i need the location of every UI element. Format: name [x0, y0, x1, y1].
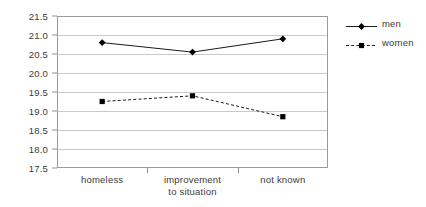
- data-point-women: [100, 99, 105, 104]
- legend-label: women: [382, 37, 414, 48]
- data-point-women: [190, 93, 195, 98]
- series-line-women: [102, 96, 283, 117]
- data-point-men: [279, 35, 286, 42]
- chart-figure: 17.518.018.519.019.520.020.521.021.5 hom…: [0, 0, 426, 207]
- x-axis-tick-label: improvementto situation: [164, 174, 221, 197]
- legend-item-women: women: [345, 33, 426, 52]
- data-point-men: [99, 39, 106, 46]
- y-axis-tick-label: 21.0: [29, 30, 48, 41]
- x-axis-tick-mark: [147, 168, 148, 173]
- y-axis-tick-label: 20.5: [29, 49, 48, 60]
- data-point-men: [189, 49, 196, 56]
- series-layer: [57, 16, 328, 168]
- y-axis-tick-label: 17.5: [29, 163, 48, 174]
- data-point-women: [280, 114, 285, 119]
- x-axis-tick-mark: [238, 168, 239, 173]
- legend-item-men: men: [345, 14, 426, 33]
- y-axis-tick-label: 18.5: [29, 125, 48, 136]
- y-axis-tick-label: 20.0: [29, 68, 48, 79]
- y-axis: 17.518.018.519.019.520.020.521.021.5: [0, 0, 57, 207]
- x-axis-label-line: homeless: [81, 174, 123, 186]
- square-marker-icon: [345, 37, 378, 48]
- legend-marker: [359, 43, 364, 48]
- y-axis-tick-label: 19.5: [29, 87, 48, 98]
- legend-label: men: [382, 18, 401, 29]
- chart-legend: menwomen: [345, 14, 426, 52]
- y-axis-tick-label: 18.0: [29, 144, 48, 155]
- y-axis-tick-label: 19.0: [29, 106, 48, 117]
- diamond-marker-icon: [345, 18, 378, 29]
- legend-marker: [358, 23, 365, 30]
- y-axis-tick-label: 21.5: [29, 11, 48, 22]
- series-men: [99, 35, 286, 55]
- x-axis-label-line: not known: [260, 174, 305, 186]
- x-axis-tick-label: not known: [260, 174, 305, 186]
- series-women: [100, 93, 286, 119]
- x-axis-tick-label: homeless: [81, 174, 123, 186]
- x-axis-label-line: to situation: [164, 186, 221, 198]
- x-axis-label-line: improvement: [164, 174, 221, 186]
